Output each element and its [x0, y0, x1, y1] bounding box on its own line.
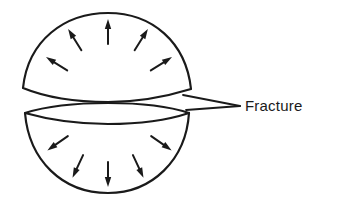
pressure-arrow-icon	[130, 154, 146, 179]
pressure-arrow-icon	[44, 54, 69, 73]
pressure-arrow-icon	[105, 19, 111, 44]
top-hemisphere	[23, 13, 191, 102]
pressure-arrow-icon	[65, 27, 84, 52]
pressure-arrow-icon	[105, 162, 111, 187]
pressure-arrow-icon	[149, 133, 173, 153]
fracture-label: Fracture	[245, 97, 302, 114]
fracture-leader-lower	[186, 106, 240, 110]
pressure-arrow-icon	[132, 27, 151, 52]
fracture-leader-upper	[183, 95, 240, 106]
pressure-arrow-icon	[46, 133, 70, 153]
fracture-leader	[183, 95, 240, 110]
bottom-hemisphere-rim	[25, 113, 189, 124]
pressure-arrow-icon	[70, 154, 86, 179]
bottom-hemisphere	[25, 103, 189, 193]
pressure-arrow-icon	[149, 54, 174, 73]
